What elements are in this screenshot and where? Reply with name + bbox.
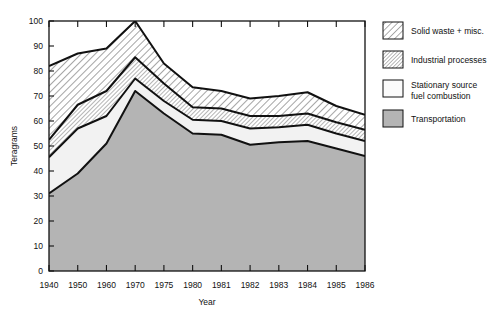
y-tick-label: 30 [34, 191, 44, 201]
x-tick-label: 1986 [356, 280, 375, 290]
y-tick-label: 90 [34, 41, 44, 51]
legend-swatch [383, 51, 403, 68]
x-tick-label: 1950 [68, 280, 87, 290]
y-tick-label: 40 [34, 166, 44, 176]
chart-figure: 0102030405060708090100 19401950196019701… [0, 0, 503, 320]
area-bands [49, 21, 365, 271]
legend-label: Transportation [411, 114, 466, 124]
legend-swatch [383, 22, 403, 39]
stacked-area-chart: 0102030405060708090100 19401950196019701… [0, 0, 503, 320]
x-axis-title: Year [198, 297, 215, 307]
y-tick-label: 70 [34, 91, 44, 101]
legend-label: Stationary source [411, 80, 477, 90]
x-tick-label: 1970 [126, 280, 145, 290]
chart-legend: Solid waste + misc.Industrial processesS… [383, 22, 487, 127]
y-axis-title: Teragrams [9, 126, 19, 166]
x-tick-label: 1981 [212, 280, 231, 290]
x-tick-label: 1982 [241, 280, 260, 290]
y-tick-label: 10 [34, 241, 44, 251]
y-tick-label: 80 [34, 66, 44, 76]
x-tick-label: 1983 [269, 280, 288, 290]
legend-swatch [383, 80, 403, 97]
legend-swatch [383, 110, 403, 127]
y-tick-label: 60 [34, 116, 44, 126]
y-tick-label: 50 [34, 141, 44, 151]
x-tick-label: 1985 [327, 280, 346, 290]
y-tick-label: 100 [29, 16, 43, 26]
legend-label-line2: fuel combustion [411, 91, 471, 101]
y-tick-label: 20 [34, 216, 44, 226]
x-tick-label: 1980 [183, 280, 202, 290]
x-tick-label: 1960 [97, 280, 116, 290]
x-tick-label: 1984 [298, 280, 317, 290]
x-tick-label: 1940 [40, 280, 59, 290]
legend-label: Industrial processes [411, 55, 487, 65]
legend-label: Solid waste + misc. [411, 26, 484, 36]
x-tick-label: 1975 [154, 280, 173, 290]
y-tick-label: 0 [38, 266, 43, 276]
